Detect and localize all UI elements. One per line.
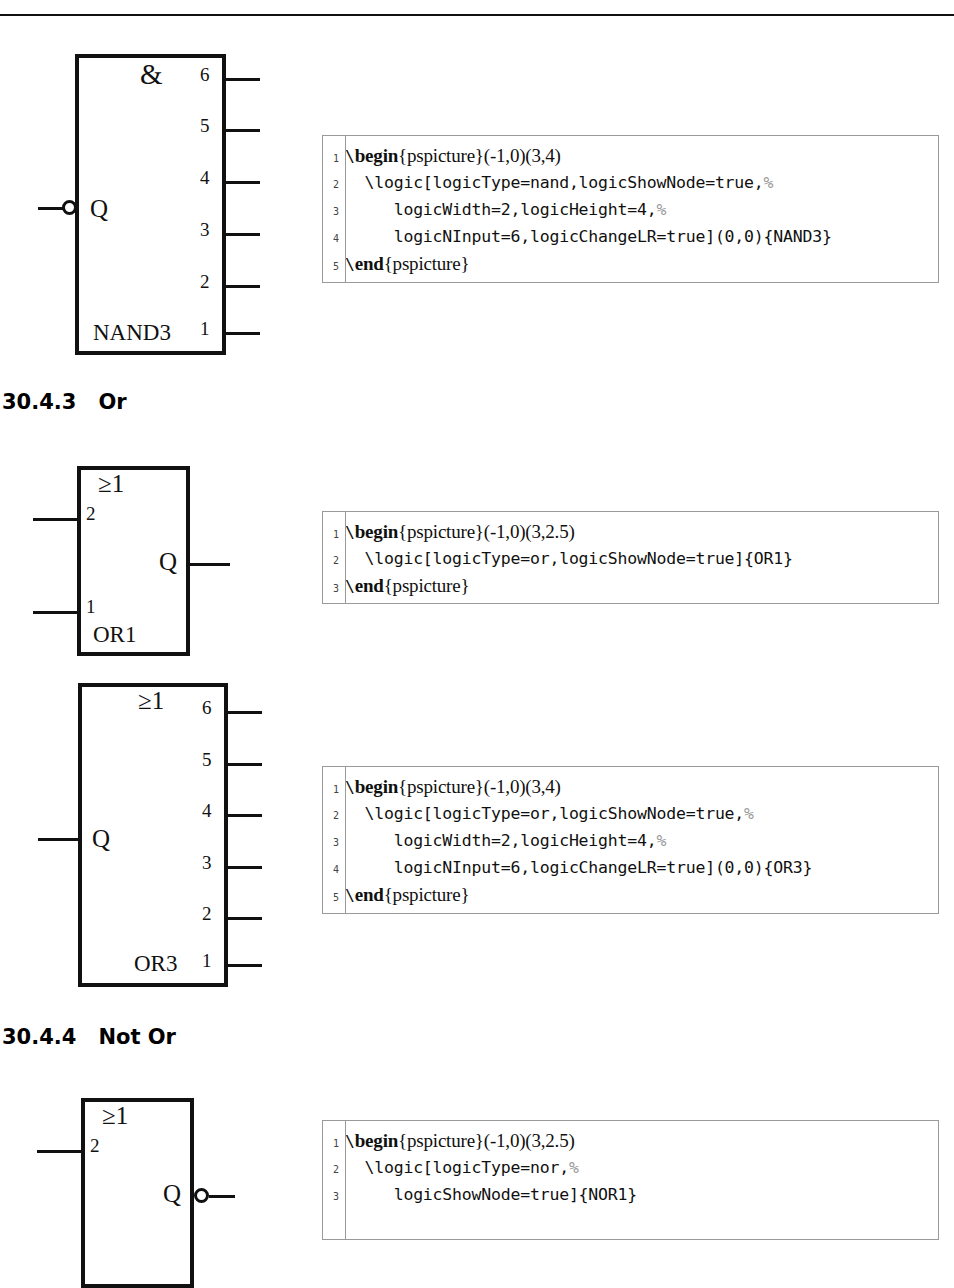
code-token: {pspicture}(-1,0)(3,4) xyxy=(398,776,561,797)
section-number: 30.4.4 xyxy=(2,1025,76,1049)
code-lines-or3: 1\begin{pspicture}(-1,0)(3,4)2 \logic[lo… xyxy=(323,773,938,908)
code-line-number: 1 xyxy=(323,776,345,803)
code-line: 4 logicNInput=6,logicChangeLR=true](0,0)… xyxy=(323,223,938,250)
code-token: % xyxy=(764,173,774,192)
code-token: % xyxy=(656,831,666,850)
code-line: 1\begin{pspicture}(-1,0)(3,4) xyxy=(323,773,938,800)
code-token: {pspicture} xyxy=(384,884,470,905)
pin-wire-3-or3 xyxy=(228,866,262,869)
code-line-text: logicNInput=6,logicChangeLR=true](0,0){N… xyxy=(345,223,832,250)
code-line-text: \logic[logicType=or,logicShowNode=true]{… xyxy=(345,545,793,572)
code-line-text: \begin{pspicture}(-1,0)(3,2.5) xyxy=(345,518,575,546)
code-token: {pspicture}(-1,0)(3,4) xyxy=(398,145,561,166)
section-title: Not Or xyxy=(98,1025,176,1049)
code-line-text: \logic[logicType=or,logicShowNode=true,% xyxy=(345,800,754,827)
pin-label-5-or3: 5 xyxy=(202,749,212,771)
pin-wire-2 xyxy=(226,285,260,288)
pin-wire-3 xyxy=(226,233,260,236)
code-token: end xyxy=(355,575,384,596)
code-token: end xyxy=(355,253,384,274)
code-line: 3 logicWidth=2,logicHeight=4,% xyxy=(323,827,938,854)
code-token: begin xyxy=(355,145,398,166)
section-heading-or: 30.4.3Or xyxy=(2,390,127,414)
code-line-number: 5 xyxy=(323,253,345,280)
code-line-number: 3 xyxy=(323,575,345,602)
code-line: 4 logicNInput=6,logicChangeLR=true](0,0)… xyxy=(323,854,938,881)
code-line: 1\begin{pspicture}(-1,0)(3,2.5) xyxy=(323,518,938,545)
code-token: \logic[logicType=nand,logicShowNode=true… xyxy=(345,173,764,192)
code-lines-nand3: 1\begin{pspicture}(-1,0)(3,4)2 \logic[lo… xyxy=(323,142,938,277)
code-block-nor1: 1\begin{pspicture}(-1,0)(3,2.5)2 \logic[… xyxy=(322,1120,939,1240)
output-label-nand3: Q xyxy=(90,195,108,223)
code-line-number: 1 xyxy=(323,145,345,172)
code-line: 2 \logic[logicType=or,logicShowNode=true… xyxy=(323,800,938,827)
output-label-or3: Q xyxy=(92,825,110,853)
code-token: begin xyxy=(355,1130,398,1151)
code-token: end xyxy=(355,884,384,905)
code-token: \logic[logicType=or,logicShowNode=true]{… xyxy=(345,549,793,568)
code-token: logicNInput=6,logicChangeLR=true](0,0){O… xyxy=(345,858,812,877)
code-line-number: 2 xyxy=(323,1156,345,1183)
code-line-text: logicNInput=6,logicChangeLR=true](0,0){O… xyxy=(345,854,812,881)
code-token: {pspicture}(-1,0)(3,2.5) xyxy=(398,521,574,542)
gate-name-or3: OR3 xyxy=(134,951,177,977)
code-line-text: logicWidth=2,logicHeight=4,% xyxy=(345,827,666,854)
code-line-number: 3 xyxy=(323,198,345,225)
code-token: {pspicture}(-1,0)(3,2.5) xyxy=(398,1130,574,1151)
code-token: \logic[logicType=nor, xyxy=(345,1158,569,1177)
code-token: begin xyxy=(355,776,398,797)
pin-label-3-or3: 3 xyxy=(202,852,212,874)
gate-symbol-nor1: ≥1 xyxy=(102,1102,128,1130)
code-token: % xyxy=(744,804,754,823)
code-token: logicWidth=2,logicHeight=4, xyxy=(345,831,656,850)
output-bubble-nor1 xyxy=(194,1188,209,1203)
code-gutter-rule xyxy=(345,767,346,913)
output-label-nor1: Q xyxy=(163,1180,181,1208)
pin-label-3: 3 xyxy=(200,219,210,241)
pin-label-1: 1 xyxy=(200,318,210,340)
output-bubble-nand3 xyxy=(62,200,77,215)
input-wire-1-or1 xyxy=(33,611,78,614)
pin-label-4-or3: 4 xyxy=(202,800,212,822)
code-token: {pspicture} xyxy=(384,253,470,274)
code-line: 3 logicShowNode=true]{NOR1} xyxy=(323,1181,938,1208)
code-lines-nor1: 1\begin{pspicture}(-1,0)(3,2.5)2 \logic[… xyxy=(323,1127,938,1208)
output-label-or1: Q xyxy=(159,548,177,576)
pin-wire-5-or3 xyxy=(228,763,262,766)
pin-wire-2-or3 xyxy=(228,917,262,920)
code-line-number: 2 xyxy=(323,547,345,574)
pin-wire-4 xyxy=(226,181,260,184)
code-line-text: \end{pspicture} xyxy=(345,881,469,909)
code-token: {pspicture} xyxy=(384,575,470,596)
code-line-text: \begin{pspicture}(-1,0)(3,4) xyxy=(345,142,561,170)
pin-wire-6 xyxy=(226,78,260,81)
code-line-number: 1 xyxy=(323,521,345,548)
code-token: \ xyxy=(345,1132,355,1151)
code-line-number: 5 xyxy=(323,884,345,911)
gate-symbol-or1: ≥1 xyxy=(98,470,124,498)
output-wire-nand3 xyxy=(38,207,63,210)
code-line-number: 3 xyxy=(323,1183,345,1210)
input-label-1-or1: 1 xyxy=(86,596,96,618)
code-line-number: 1 xyxy=(323,1130,345,1157)
code-token: \ xyxy=(345,577,355,596)
gate-name-or1: OR1 xyxy=(93,622,136,648)
code-block-or1: 1\begin{pspicture}(-1,0)(3,2.5)2 \logic[… xyxy=(322,511,939,604)
gate-name-nand3: NAND3 xyxy=(93,320,171,346)
code-token: \logic[logicType=or,logicShowNode=true, xyxy=(345,804,744,823)
code-line: 1\begin{pspicture}(-1,0)(3,2.5) xyxy=(323,1127,938,1154)
code-line-text: \end{pspicture} xyxy=(345,572,469,600)
code-token: \ xyxy=(345,147,355,166)
code-line: 2 \logic[logicType=nor,% xyxy=(323,1154,938,1181)
pin-wire-4-or3 xyxy=(228,814,262,817)
code-line-number: 4 xyxy=(323,225,345,252)
code-line-text: \logic[logicType=nor,% xyxy=(345,1154,579,1181)
pin-wire-5 xyxy=(226,129,260,132)
code-line-text: logicWidth=2,logicHeight=4,% xyxy=(345,196,666,223)
input-wire-2-or1 xyxy=(33,518,78,521)
code-token: \ xyxy=(345,523,355,542)
code-gutter-rule xyxy=(345,1121,346,1239)
code-line-text: logicShowNode=true]{NOR1} xyxy=(345,1181,637,1208)
pin-label-2: 2 xyxy=(200,271,210,293)
code-line: 3\end{pspicture} xyxy=(323,572,938,599)
